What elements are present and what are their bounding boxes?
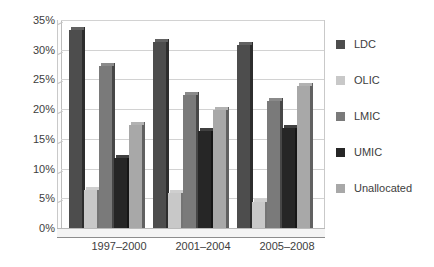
legend-swatch-icon bbox=[336, 148, 345, 157]
legend-item[interactable]: UMIC bbox=[336, 134, 434, 170]
legend-label: LDC bbox=[354, 39, 376, 50]
bar-cap bbox=[299, 83, 312, 86]
bar-cap bbox=[86, 187, 99, 190]
bar bbox=[114, 158, 127, 232]
bar-cap bbox=[239, 42, 252, 45]
bar-face bbox=[114, 158, 127, 232]
legend-swatch-icon bbox=[336, 76, 345, 85]
legend-swatch-icon bbox=[336, 112, 345, 121]
bar-face bbox=[69, 30, 82, 232]
legend-label: UMIC bbox=[354, 147, 382, 158]
y-tick-label: 0% bbox=[3, 223, 55, 234]
bar-group bbox=[69, 24, 153, 232]
bar-cap bbox=[200, 128, 213, 131]
bar bbox=[99, 66, 112, 232]
bar-edge bbox=[250, 42, 253, 229]
bar-face bbox=[213, 110, 226, 232]
legend-item[interactable]: OLIC bbox=[336, 62, 434, 98]
bar bbox=[84, 190, 97, 232]
x-tick-label: 2005–2008 bbox=[242, 240, 332, 252]
y-tick-label: 20% bbox=[3, 104, 55, 115]
legend-item[interactable]: LDC bbox=[336, 26, 434, 62]
bar-cap bbox=[254, 199, 267, 202]
bar-cap bbox=[131, 122, 144, 125]
legend-label: LMIC bbox=[354, 111, 380, 122]
y-tick-label: 25% bbox=[3, 74, 55, 85]
bar bbox=[168, 193, 181, 232]
bar-face bbox=[282, 128, 295, 232]
bar-cap bbox=[71, 27, 84, 30]
legend-label: OLIC bbox=[354, 75, 380, 86]
bar-face bbox=[183, 95, 196, 232]
bar-face bbox=[237, 45, 250, 232]
bar bbox=[198, 131, 211, 232]
bar-face bbox=[198, 131, 211, 232]
y-tick-label: 30% bbox=[3, 45, 55, 56]
bar bbox=[69, 30, 82, 232]
x-tick-label: 1997–2000 bbox=[74, 240, 164, 252]
y-tick-label: 15% bbox=[3, 134, 55, 145]
bar-edge bbox=[226, 107, 229, 229]
bar-face bbox=[297, 86, 310, 232]
bar bbox=[213, 110, 226, 232]
bar-face bbox=[84, 190, 97, 232]
bar-face bbox=[99, 66, 112, 232]
bar-edge bbox=[310, 83, 313, 229]
bar-cap bbox=[185, 92, 198, 95]
legend-swatch-icon bbox=[336, 184, 345, 193]
plot-floor bbox=[57, 228, 325, 238]
chart-legend: LDCOLICLMICUMICUnallocated bbox=[336, 26, 434, 206]
bar bbox=[153, 42, 166, 232]
bar-cap bbox=[116, 155, 129, 158]
x-tick-label: 2001–2004 bbox=[158, 240, 248, 252]
bar-cap bbox=[215, 107, 228, 110]
y-tick-label: 10% bbox=[3, 164, 55, 175]
bar bbox=[282, 128, 295, 232]
bar-edge bbox=[142, 122, 145, 229]
bar bbox=[267, 101, 280, 232]
legend-label: Unallocated bbox=[354, 183, 412, 194]
bar-cap bbox=[269, 98, 282, 101]
bar-face bbox=[129, 125, 142, 232]
bar-cap bbox=[170, 190, 183, 193]
bar-chart: 0%5%10%15%20%25%30%35% 1997–20002001–200… bbox=[0, 0, 434, 267]
bar-cap bbox=[155, 39, 168, 42]
legend-swatch-icon bbox=[336, 40, 345, 49]
bar-face bbox=[267, 101, 280, 232]
bar bbox=[237, 45, 250, 232]
y-tick-label: 5% bbox=[3, 193, 55, 204]
bar-group bbox=[153, 24, 237, 232]
bar bbox=[183, 95, 196, 232]
gridline bbox=[61, 20, 324, 21]
bar-cap bbox=[284, 125, 297, 128]
legend-item[interactable]: Unallocated bbox=[336, 170, 434, 206]
bar bbox=[129, 125, 142, 232]
bar-cap bbox=[101, 63, 114, 66]
bar bbox=[297, 86, 310, 232]
y-axis-labels: 0%5%10%15%20%25%30%35% bbox=[0, 0, 55, 267]
bar-face bbox=[153, 42, 166, 232]
bar-group bbox=[237, 24, 321, 232]
legend-item[interactable]: LMIC bbox=[336, 98, 434, 134]
bar-face bbox=[168, 193, 181, 232]
y-tick-label: 35% bbox=[3, 15, 55, 26]
plot-area bbox=[57, 20, 325, 232]
